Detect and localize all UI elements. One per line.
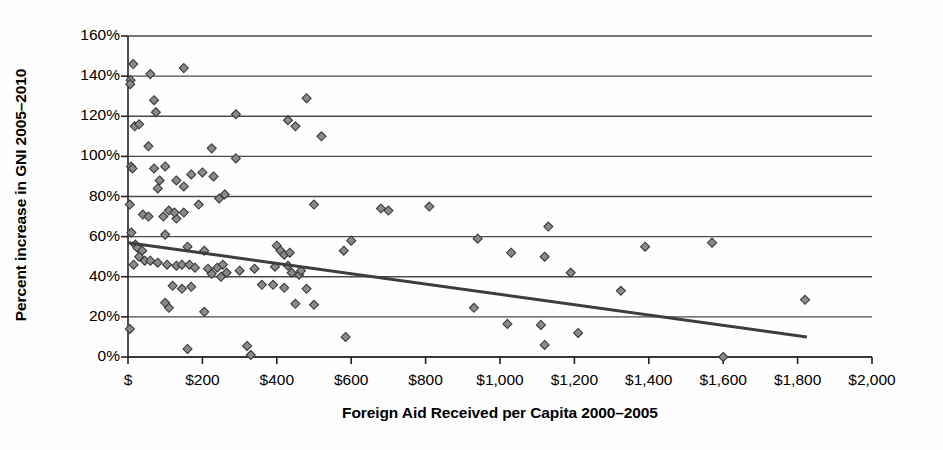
data-point [469,303,478,312]
data-point [376,204,385,213]
data-point [341,332,350,341]
data-point [339,246,348,255]
data-point [616,286,625,295]
data-point [129,260,138,269]
data-point [280,283,289,292]
data-point [207,144,216,153]
data-point [163,260,172,269]
data-point [150,96,159,105]
data-point [146,70,155,79]
data-point [200,307,209,316]
data-point [425,202,434,211]
data-point [161,230,170,239]
gridlines [128,36,872,357]
data-point [719,353,728,362]
data-point [150,164,159,173]
scatter-chart: Percent increase in GNI 2005–2010 0%20%4… [0,0,943,450]
data-point [302,284,311,293]
trendline [128,243,807,337]
data-point [801,295,810,304]
data-point [503,319,512,328]
data-point [172,176,181,185]
data-point [384,206,393,215]
data-point [209,172,218,181]
data-point [187,282,196,291]
data-point [473,234,482,243]
data-point [574,328,583,337]
data-point [151,108,160,117]
data-point [310,200,319,209]
data-point [347,236,356,245]
data-point [183,344,192,353]
data-point [291,122,300,131]
data-point [194,200,203,209]
data-point [177,284,186,293]
data-point [146,256,155,265]
trendline-segment [128,243,807,337]
data-point [187,170,196,179]
data-point [566,268,575,277]
data-point [153,184,162,193]
data-point [198,168,207,177]
data-point [708,238,717,247]
data-point [507,248,516,257]
data-point [125,324,134,333]
data-point [155,176,164,185]
data-point [246,350,255,359]
data-point [269,280,278,289]
data-point [231,110,240,119]
data-point [179,182,188,191]
data-point [540,340,549,349]
data-point [129,60,138,69]
data-point [179,64,188,73]
data-point [283,116,292,125]
data-point [641,242,650,251]
data-point [168,281,177,290]
data-point [291,299,300,308]
plot-area [0,0,943,450]
data-point [235,266,244,275]
data-point [257,280,266,289]
data-point [536,320,545,329]
data-point [317,132,326,141]
data-point [144,142,153,151]
data-point [250,264,259,273]
data-point [544,222,553,231]
data-point [231,154,240,163]
data-point [161,162,170,171]
data-point [310,300,319,309]
data-point [302,94,311,103]
data-point [540,252,549,261]
data-point [125,200,134,209]
data-point [243,341,252,350]
data-point [179,208,188,217]
data-point [153,258,162,267]
x-axis-ticks [128,357,872,364]
data-point [159,212,168,221]
